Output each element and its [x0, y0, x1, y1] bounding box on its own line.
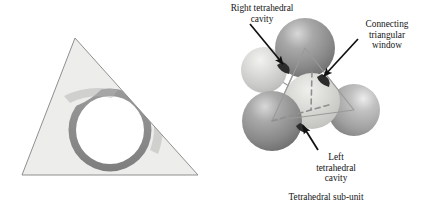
label-connecting-triangular-window: Connecting triangular window — [344, 19, 430, 51]
corner-lobes — [0, 0, 278, 215]
triangular-face-panel — [0, 0, 278, 215]
connecting-window-aperture — [76, 96, 144, 164]
figure-caption: Tetrahedral sub-unit — [262, 192, 390, 203]
triangle-body — [0, 0, 278, 215]
arrow-left-cavity — [303, 126, 318, 150]
label-right-tetrahedral-cavity: Right tetrahedral cavity — [214, 3, 310, 24]
label-left-tetrahedral-cavity: Left tetrahedral cavity — [300, 152, 372, 184]
